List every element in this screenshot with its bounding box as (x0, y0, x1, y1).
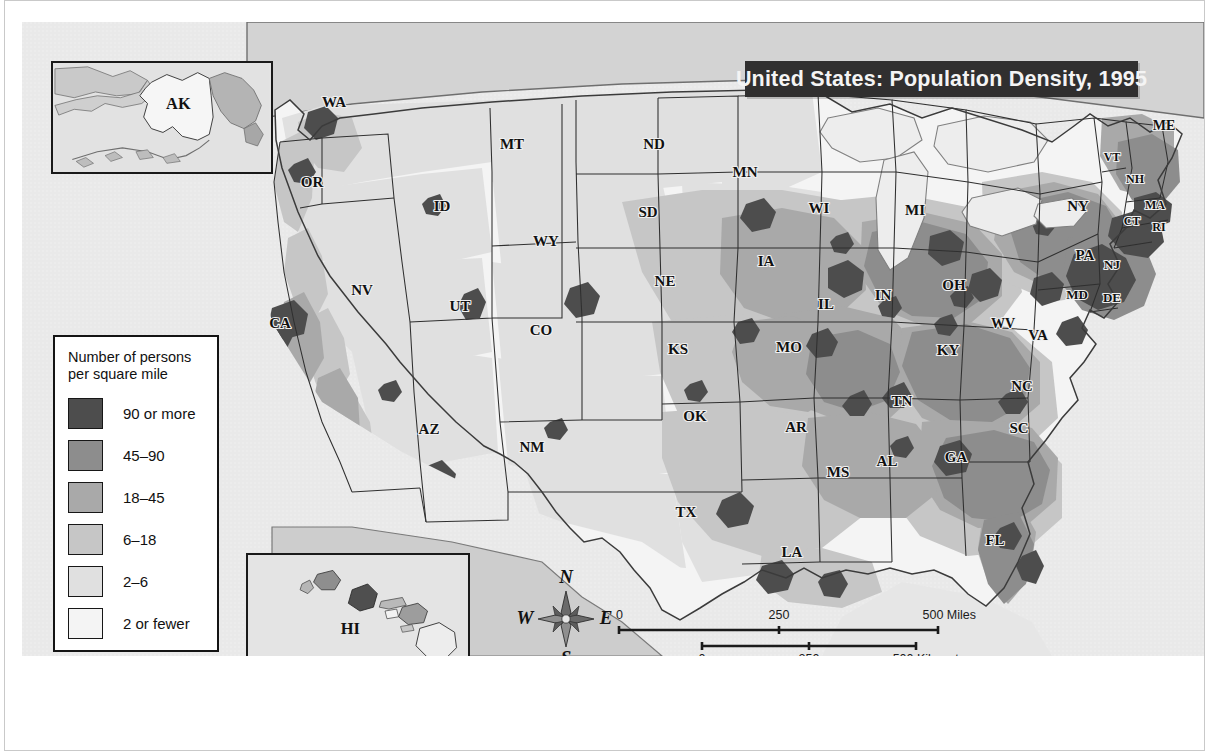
compass-south-label: S (561, 647, 572, 656)
compass-rose: N S E W (511, 565, 621, 656)
state-label-ma: MA (1145, 198, 1165, 212)
state-label-md: MD (1066, 287, 1088, 302)
scale-miles-tick-250: 250 (769, 608, 790, 622)
state-label-mo: MO (776, 339, 802, 355)
state-label-nc: NC (1011, 378, 1033, 394)
compass-west-label: W (517, 607, 535, 628)
state-label-ca: CA (269, 315, 291, 331)
legend-title-line1: Number of persons (68, 349, 191, 365)
scale-km-tick-500: 500 Kilometers (893, 652, 976, 656)
state-label-sd: SD (638, 204, 657, 220)
scale-miles-tick-500: 500 Miles (923, 608, 977, 622)
legend-rows: 90 or more45–9018–456–182–62 or fewer (68, 392, 217, 644)
state-label-nj: NJ (1104, 257, 1120, 272)
legend-label: 90 or more (123, 405, 196, 422)
state-label-pa: PA (1076, 247, 1095, 263)
state-label-or: OR (301, 174, 324, 190)
state-label-ne: NE (655, 273, 676, 289)
state-label-me: ME (1153, 118, 1176, 133)
legend-label: 2–6 (123, 573, 148, 590)
scale-miles-tick-0: 0 (616, 608, 623, 622)
map-page: WAORCANVIDMTWYUTAZNMCONDSDNEKSOKTXMNIAMO… (0, 0, 1208, 755)
state-label-nd: ND (643, 136, 665, 152)
legend-swatch (68, 482, 103, 513)
map-legend: Number of persons per square mile 90 or … (53, 335, 219, 652)
scale-bar-kilometers: 0 250 500 Kilometers (699, 642, 976, 656)
state-label-oh: OH (942, 277, 966, 293)
state-label-id: ID (434, 198, 451, 214)
state-label-ms: MS (827, 464, 850, 480)
state-label-ny: NY (1067, 198, 1089, 214)
state-label-tn: TN (892, 393, 913, 409)
state-label-vt: VT (1104, 150, 1121, 164)
state-label-al: AL (877, 453, 898, 469)
state-label-ks: KS (668, 341, 688, 357)
legend-swatch (68, 608, 103, 639)
legend-label: 6–18 (123, 531, 156, 548)
alaska-inset-map: AK (53, 63, 271, 172)
legend-swatch (68, 440, 103, 471)
legend-row: 2–6 (68, 560, 217, 602)
state-label-in: IN (875, 287, 892, 303)
legend-row: 90 or more (68, 392, 217, 434)
scale-km-tick-250: 250 (799, 652, 820, 656)
alaska-inset: AK (51, 61, 273, 174)
legend-row: 6–18 (68, 518, 217, 560)
state-label-wi: WI (809, 200, 830, 216)
legend-label: 18–45 (123, 489, 165, 506)
state-label-nh: NH (1126, 172, 1145, 186)
state-label-ga: GA (945, 449, 968, 465)
state-label-de: DE (1103, 290, 1121, 305)
scale-bar-miles: 0 250 500 Miles (616, 608, 976, 634)
hawaii-inset: HI (246, 553, 470, 656)
state-label-fl: FL (985, 532, 1004, 548)
scale-km-tick-0: 0 (699, 652, 706, 656)
hawaii-label: HI (341, 619, 360, 638)
legend-title-line2: per square mile (68, 366, 168, 382)
state-label-ok: OK (683, 408, 707, 424)
legend-label: 2 or fewer (123, 615, 190, 632)
state-label-co: CO (530, 322, 553, 338)
state-label-ia: IA (758, 253, 775, 269)
state-label-wa: WA (322, 94, 346, 110)
state-label-ct: CT (1124, 214, 1141, 228)
legend-swatch (68, 398, 103, 429)
legend-title: Number of persons per square mile (68, 349, 218, 383)
alaska-label: AK (166, 94, 191, 113)
legend-row: 45–90 (68, 434, 217, 476)
state-label-az: AZ (419, 421, 440, 437)
state-label-ri: RI (1152, 220, 1166, 234)
state-label-mt: MT (500, 136, 524, 152)
map-title-banner: United States: Population Density, 1995 (745, 61, 1138, 97)
state-label-ut: UT (450, 298, 471, 314)
state-label-nv: NV (351, 282, 373, 298)
state-label-wv: WV (991, 316, 1015, 331)
state-label-il: IL (818, 296, 834, 312)
legend-swatch (68, 566, 103, 597)
legend-label: 45–90 (123, 447, 165, 464)
state-label-la: LA (782, 544, 803, 560)
compass-east-label: E (599, 607, 613, 628)
state-label-ar: AR (785, 419, 807, 435)
legend-row: 18–45 (68, 476, 217, 518)
hawaii-inset-map: HI (248, 555, 468, 656)
map-title: United States: Population Density, 1995 (736, 67, 1147, 92)
compass-star (538, 591, 594, 647)
state-label-nm: NM (520, 439, 545, 455)
legend-row: 2 or fewer (68, 602, 217, 644)
scale-bars: 0 250 500 Miles 0 250 500 Kilometers (616, 608, 976, 656)
map-plate: WAORCANVIDMTWYUTAZNMCONDSDNEKSOKTXMNIAMO… (22, 22, 1204, 656)
legend-swatch (68, 524, 103, 555)
state-label-tx: TX (676, 504, 697, 520)
state-label-ky: KY (937, 342, 960, 358)
state-label-sc: SC (1009, 420, 1028, 436)
state-label-va: VA (1028, 327, 1048, 343)
state-label-mn: MN (733, 164, 758, 180)
state-label-mi: MI (905, 202, 925, 218)
compass-north-label: N (558, 566, 574, 587)
state-label-wy: WY (533, 233, 559, 249)
